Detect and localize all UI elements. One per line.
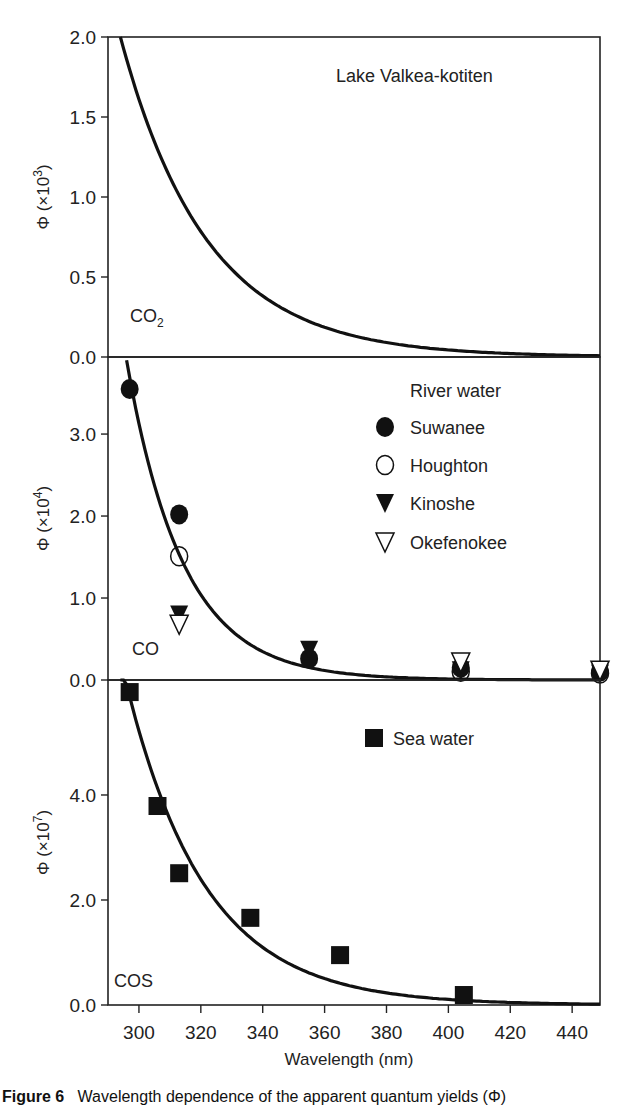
chart-panels: 0.00.51.01.52.0Φ (×103)CO2Lake Valkea-ko… — [31, 27, 609, 1069]
y-tick-label: 2.0 — [70, 27, 96, 48]
species-label: COS — [114, 971, 153, 991]
y-tick-label: 1.0 — [70, 588, 96, 609]
panel-top: 0.00.51.01.52.0Φ (×103)CO2Lake Valkea-ko… — [31, 27, 600, 368]
data-point-sea-water — [121, 683, 139, 701]
x-tick-label: 360 — [309, 1022, 341, 1043]
x-tick-label: 440 — [556, 1022, 588, 1043]
x-tick-label: 320 — [185, 1022, 217, 1043]
legend-label-sea-water: Sea water — [393, 729, 474, 749]
y-tick-label: 2.0 — [70, 890, 96, 911]
x-tick-label: 400 — [433, 1022, 465, 1043]
y-axis-title: Φ (×103) — [31, 164, 53, 229]
panel-bottom: 0.02.04.0Φ (×107)COSSea water30032034036… — [31, 680, 600, 1069]
legend-marker-suwanee — [376, 417, 394, 437]
legend-label-houghton: Houghton — [410, 456, 488, 476]
data-point-sea-water — [149, 797, 167, 815]
y-tick-label: 0.5 — [70, 267, 96, 288]
y-axis-title: Φ (×107) — [31, 810, 53, 875]
caption-text: Wavelength dependence of the apparent qu… — [78, 1088, 506, 1105]
y-tick-label: 4.0 — [70, 785, 96, 806]
species-subscript: 2 — [157, 316, 164, 330]
data-point-okefenokee — [170, 615, 188, 634]
x-tick-label: 340 — [247, 1022, 279, 1043]
y-tick-label: 0.0 — [70, 347, 96, 368]
y-tick-label: 2.0 — [70, 506, 96, 527]
figure-caption: Figure 6 Wavelength dependence of the ap… — [2, 1088, 506, 1106]
fit-curve — [127, 360, 600, 680]
y-tick-label: 0.0 — [70, 995, 96, 1016]
data-point-suwanee — [121, 379, 139, 399]
panel-title: Lake Valkea-kotiten — [336, 66, 493, 86]
data-point-suwanee — [170, 504, 188, 524]
data-point-sea-water — [455, 986, 473, 1004]
legend-marker-kinoshe — [376, 494, 394, 513]
y-axis-close-paren: ) — [34, 486, 53, 492]
y-axis-close-paren: ) — [34, 810, 53, 816]
y-tick-label: 0.0 — [70, 670, 96, 691]
fit-curve — [120, 680, 600, 1004]
data-point-sea-water — [170, 864, 188, 882]
y-axis-title: Φ (×104) — [31, 486, 53, 551]
y-axis-close-paren: ) — [34, 164, 53, 170]
legend-marker-sea-water — [365, 729, 383, 747]
caption-label: Figure 6 — [2, 1088, 64, 1105]
x-tick-label: 380 — [371, 1022, 403, 1043]
x-axis-title: Wavelength (nm) — [285, 1050, 414, 1069]
legend-title: River water — [410, 381, 501, 401]
legend-marker-okefenokee — [376, 533, 394, 552]
panel-middle: 0.01.02.03.0Φ (×104)CORiver waterSuwanee… — [31, 357, 609, 691]
x-tick-label: 420 — [494, 1022, 526, 1043]
data-point-sea-water — [241, 909, 259, 927]
y-tick-label: 3.0 — [70, 424, 96, 445]
legend-label-suwanee: Suwanee — [410, 418, 485, 438]
species-label: CO — [132, 639, 159, 659]
legend-label-kinoshe: Kinoshe — [410, 494, 475, 514]
species-label: CO2 — [130, 306, 164, 330]
legend-marker-houghton — [377, 456, 394, 475]
data-point-sea-water — [331, 946, 349, 964]
y-tick-label: 1.5 — [70, 107, 96, 128]
legend-label-okefenokee: Okefenokee — [410, 533, 507, 553]
x-tick-label: 300 — [123, 1022, 155, 1043]
y-tick-label: 1.0 — [70, 187, 96, 208]
